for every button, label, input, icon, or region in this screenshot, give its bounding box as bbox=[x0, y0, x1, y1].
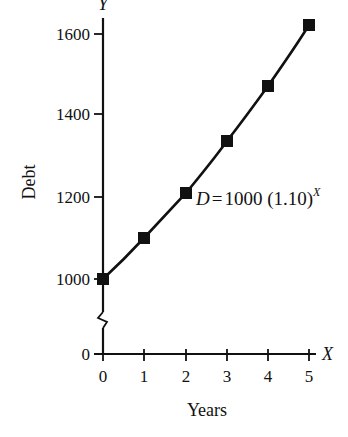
data-point-4 bbox=[262, 80, 274, 92]
chart: 1600 1400 1200 1000 0 0 1 2 3 4 5 Y X Ye… bbox=[0, 0, 348, 437]
x-tick-label-4: 4 bbox=[264, 367, 273, 386]
y-ticks bbox=[94, 34, 103, 279]
growth-curve bbox=[103, 25, 309, 279]
y-tick-label-1400: 1400 bbox=[56, 105, 90, 124]
equation-exponent: X bbox=[312, 185, 321, 199]
y-tick-label-1000: 1000 bbox=[56, 270, 90, 289]
y-tick-label-1200: 1200 bbox=[56, 188, 90, 207]
data-markers bbox=[97, 19, 315, 285]
svg-text:D=1000 (1.10)X: D=1000 (1.10)X bbox=[195, 185, 321, 210]
x-tick-label-0: 0 bbox=[99, 367, 108, 386]
y-axis-letter: Y bbox=[98, 0, 110, 14]
data-point-1 bbox=[138, 232, 150, 244]
data-point-0 bbox=[97, 273, 109, 285]
y-axis-title: Debt bbox=[19, 165, 39, 200]
y-axis-break bbox=[98, 312, 107, 328]
data-point-5 bbox=[303, 19, 315, 31]
x-tick-label-5: 5 bbox=[305, 367, 314, 386]
x-tick-label-2: 2 bbox=[182, 367, 191, 386]
x-axis-letter: X bbox=[321, 344, 334, 364]
y-tick-label-1600: 1600 bbox=[56, 25, 90, 44]
data-point-3 bbox=[221, 135, 233, 147]
x-tick-label-1: 1 bbox=[140, 367, 149, 386]
x-axis-title: Years bbox=[187, 400, 227, 420]
equation-equals: = bbox=[212, 188, 223, 209]
equation-annotation: D=1000 (1.10)X bbox=[195, 185, 321, 210]
x-tick-label-3: 3 bbox=[223, 367, 232, 386]
data-point-2 bbox=[180, 187, 192, 199]
equation-lhs: D bbox=[195, 188, 210, 209]
y-tick-label-0: 0 bbox=[82, 345, 91, 364]
equation-rhs: 1000 (1.10) bbox=[224, 188, 313, 210]
